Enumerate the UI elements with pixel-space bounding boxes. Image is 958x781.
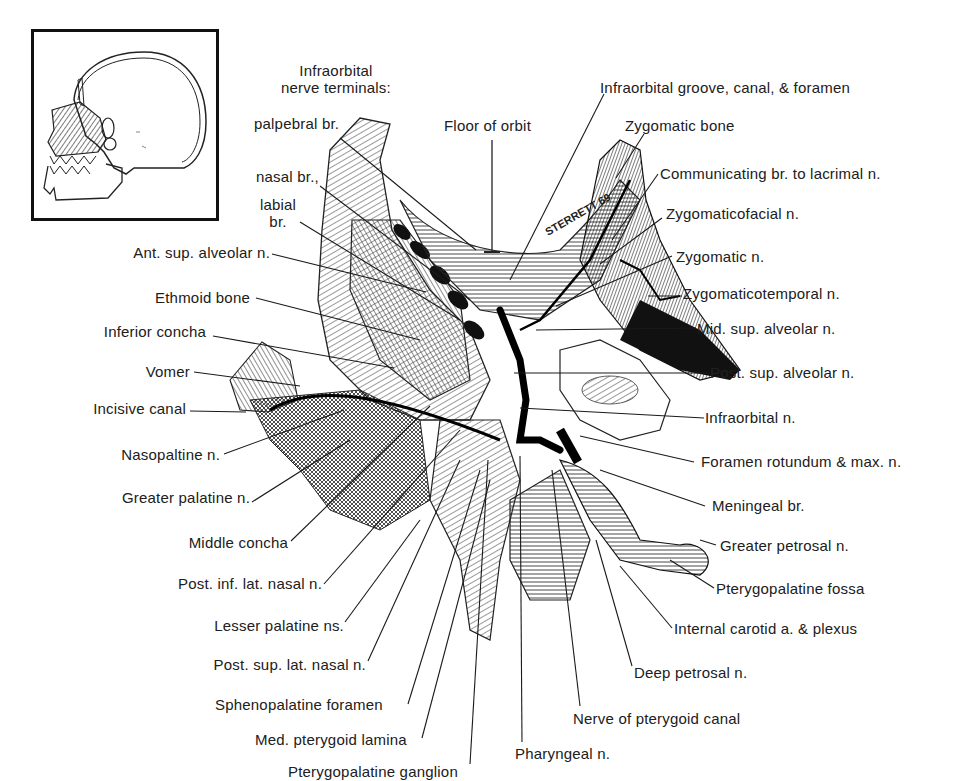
label-nerve-pterygoid-canal: Nerve of pterygoid canal bbox=[573, 710, 740, 727]
label-deep-petrosal-n: Deep petrosal n. bbox=[634, 664, 747, 681]
label-infraorbital-header-line2: nerve terminals: bbox=[266, 79, 406, 96]
label-zygomaticofacial-n: Zygomaticofacial n. bbox=[666, 205, 799, 222]
label-zygomaticotemporal-n: Zygomaticotemporal n. bbox=[683, 285, 840, 302]
label-post-sup-alveolar-n: Post. sup. alveolar n. bbox=[710, 364, 854, 381]
label-labial-line1: labial bbox=[258, 196, 298, 213]
label-internal-carotid: Internal carotid a. & plexus bbox=[674, 620, 857, 637]
label-foramen-rotundum: Foramen rotundum & max. n. bbox=[701, 453, 901, 470]
label-pharyngeal-n: Pharyngeal n. bbox=[515, 745, 610, 762]
label-nasal-br: nasal br., bbox=[256, 168, 319, 185]
bone-shapes: STERRETT 69 bbox=[230, 118, 740, 640]
label-sphenopalatine-foramen: Sphenopalatine foramen bbox=[215, 696, 383, 713]
label-infraorbital-header-line1: Infraorbital bbox=[266, 62, 406, 79]
label-infraorbital-groove: Infraorbital groove, canal, & foramen bbox=[600, 79, 850, 96]
label-greater-palatine-n: Greater palatine n. bbox=[122, 489, 250, 506]
label-inferior-concha: Inferior concha bbox=[104, 323, 206, 340]
label-post-inf-lat-nasal-n: Post. inf. lat. nasal n. bbox=[178, 575, 322, 592]
label-pterygopalatine-fossa: Pterygopalatine fossa bbox=[716, 580, 864, 597]
label-labial-br: labial br. bbox=[258, 196, 298, 230]
label-infraorbital-header: Infraorbital nerve terminals: bbox=[266, 62, 406, 96]
label-labial-line2: br. bbox=[258, 213, 298, 230]
label-floor-of-orbit: Floor of orbit bbox=[444, 117, 531, 134]
label-infraorbital-n: Infraorbital n. bbox=[705, 409, 796, 426]
label-meningeal-br: Meningeal br. bbox=[712, 497, 805, 514]
label-incisive-canal: Incisive canal bbox=[93, 400, 186, 417]
label-communicating-br: Communicating br. to lacrimal n. bbox=[660, 165, 881, 182]
label-mid-sup-alveolar-n: Mid. sup. alveolar n. bbox=[697, 320, 835, 337]
label-ethmoid-bone: Ethmoid bone bbox=[155, 289, 250, 306]
label-ant-sup-alveolar-n: Ant. sup. alveolar n. bbox=[133, 244, 270, 261]
label-middle-concha: Middle concha bbox=[189, 534, 288, 551]
label-lesser-palatine-ns: Lesser palatine ns. bbox=[214, 617, 344, 634]
label-post-sup-lat-nasal-n: Post. sup. lat. nasal n. bbox=[214, 656, 366, 673]
label-vomer: Vomer bbox=[146, 363, 190, 380]
label-zygomatic-bone: Zygomatic bone bbox=[625, 117, 735, 134]
label-palpebral-br: palpebral br. bbox=[254, 115, 339, 132]
label-greater-petrosal-n: Greater petrosal n. bbox=[720, 537, 849, 554]
label-med-pterygoid-lamina: Med. pterygoid lamina bbox=[255, 731, 407, 748]
label-nasopaltine-n: Nasopaltine n. bbox=[121, 446, 220, 463]
anatomy-figure: STERRETT 69 bbox=[0, 0, 958, 781]
label-pterygopalatine-ganglion: Pterygopalatine ganglion bbox=[288, 763, 458, 780]
label-zygomatic-n: Zygomatic n. bbox=[676, 248, 764, 265]
